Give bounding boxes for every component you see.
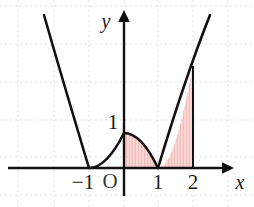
y-tick-label-1: 1 bbox=[108, 110, 119, 134]
x-tick-label-1: 1 bbox=[153, 170, 164, 194]
background-grid bbox=[0, 0, 254, 207]
plot-canvas: y x O 1 −1 1 2 bbox=[0, 0, 254, 207]
x-axis bbox=[8, 162, 234, 174]
origin-label: O bbox=[102, 169, 117, 193]
x-tick-label-2: 2 bbox=[188, 170, 199, 194]
x-axis-label: x bbox=[235, 171, 245, 193]
y-axis-label: y bbox=[100, 10, 111, 33]
math-figure: y x O 1 −1 1 2 bbox=[0, 0, 254, 207]
x-tick-label-neg-1: −1 bbox=[72, 170, 94, 194]
